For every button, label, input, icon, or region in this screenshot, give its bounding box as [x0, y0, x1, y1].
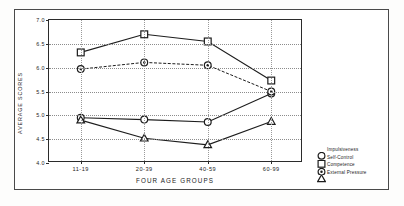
x-tick-label: 11-19 [73, 166, 89, 172]
legend-label: Impulsiveness [327, 147, 358, 152]
legend-label: Self-Control [327, 155, 353, 160]
y-tick-mark [46, 68, 49, 69]
data-point-open-triangle [318, 175, 326, 182]
gridline-horizontal [49, 92, 301, 93]
x-tick-mark [81, 161, 82, 164]
y-tick-label: 4.5 [36, 136, 45, 142]
y-tick-mark [46, 139, 49, 140]
legend-marker-dotted-circle-icon [317, 161, 326, 169]
x-tick-mark [144, 161, 145, 164]
y-tick-mark [46, 163, 49, 164]
chart-legend: ImpulsivenessSelf-ControlCompetenceExter… [317, 146, 387, 176]
legend-item: Impulsiveness [317, 146, 387, 154]
legend-marker-open-triangle-icon [317, 169, 326, 177]
legend-label: Competence [327, 162, 355, 167]
gridline-horizontal [49, 68, 301, 69]
series-line [81, 120, 272, 145]
x-tick-label: 60-99 [263, 166, 280, 172]
legend-item: Self-Control [317, 154, 387, 162]
y-tick-label: 5.0 [36, 112, 45, 118]
y-tick-mark [46, 20, 49, 21]
gridline-vertical [208, 20, 209, 161]
y-tick-label: 6.0 [36, 65, 45, 71]
gridline-vertical [271, 20, 272, 161]
series-impulsiveness [77, 90, 274, 125]
series-self-control [77, 31, 274, 84]
y-axis-title: AVERAGE SCORES [17, 72, 23, 134]
legend-item: External Pressure [317, 169, 387, 177]
plot-area: 7.06.56.05.55.04.54.011-1920-3940-5960-9… [48, 19, 302, 162]
legend-label: External Pressure [327, 170, 367, 175]
gridline-vertical [144, 20, 145, 161]
legend-marker-open-square-icon [317, 154, 326, 162]
series-line [81, 93, 272, 122]
gridline-horizontal [49, 139, 301, 140]
chart-figure: AVERAGE SCORES 7.06.56.05.55.04.54.011-1… [0, 0, 404, 206]
y-tick-label: 5.5 [36, 89, 45, 95]
legend-marker-open-circle-icon [317, 146, 326, 154]
y-tick-mark [46, 92, 49, 93]
legend-item: Competence [317, 161, 387, 169]
y-tick-label: 6.5 [36, 41, 45, 47]
y-tick-label: 7.0 [36, 17, 45, 23]
y-tick-label: 4.0 [36, 160, 45, 166]
x-tick-label: 40-59 [199, 166, 216, 172]
x-tick-mark [271, 161, 272, 164]
y-tick-mark [46, 115, 49, 116]
y-tick-mark [46, 44, 49, 45]
series-line [81, 34, 272, 80]
gridline-horizontal [49, 115, 301, 116]
x-tick-mark [208, 161, 209, 164]
x-tick-label: 20-39 [136, 166, 153, 172]
x-axis-title: FOUR AGE GROUPS [136, 177, 214, 184]
gridline-vertical [81, 20, 82, 161]
gridline-horizontal [49, 44, 301, 45]
